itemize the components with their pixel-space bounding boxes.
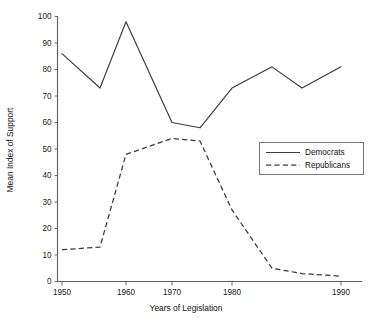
y-tick-label-60: 60 xyxy=(42,118,52,127)
x-tick-label-1990: 1990 xyxy=(332,288,351,297)
legend-label-democrats: Democrats xyxy=(305,148,345,157)
y-axis-ticks: 0102030405060708090100 xyxy=(38,12,58,286)
x-tick-label-1980: 1980 xyxy=(223,288,242,297)
y-tick-label-80: 80 xyxy=(42,65,52,74)
y-tick-label-100: 100 xyxy=(38,12,52,21)
y-tick-label-50: 50 xyxy=(42,145,52,154)
y-tick-label-70: 70 xyxy=(42,92,52,101)
x-tick-label-1960: 1960 xyxy=(117,288,136,297)
line-chart: 0102030405060708090100 19501960197019801… xyxy=(0,0,373,332)
y-tick-label-30: 30 xyxy=(42,198,52,207)
y-axis-title: Mean Index of Support xyxy=(5,107,15,192)
x-tick-label-1970: 1970 xyxy=(163,288,182,297)
x-axis-title: Years of Legislation xyxy=(150,303,223,313)
y-tick-label-0: 0 xyxy=(47,277,52,286)
x-axis-ticks: 19501960197019801990 xyxy=(53,282,351,298)
y-tick-label-10: 10 xyxy=(42,251,52,260)
legend-label-republicans: Republicans xyxy=(305,161,350,170)
series-line-democrats xyxy=(62,22,341,128)
y-tick-label-20: 20 xyxy=(42,224,52,233)
y-tick-label-40: 40 xyxy=(42,171,52,180)
y-tick-label-90: 90 xyxy=(42,39,52,48)
x-tick-label-1950: 1950 xyxy=(53,288,72,297)
chart-container: 0102030405060708090100 19501960197019801… xyxy=(0,0,373,332)
legend: Democrats Republicans xyxy=(260,143,364,175)
